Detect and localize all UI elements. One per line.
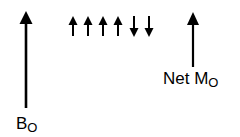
spin-down-arrow-icon bbox=[130, 16, 139, 37]
b0-label-subscript: O bbox=[27, 120, 37, 135]
spin-up-arrow-icon bbox=[69, 16, 78, 36]
b0-label-main: B bbox=[16, 114, 27, 133]
net-magnetization-arrow-icon bbox=[187, 12, 199, 67]
spin-up-arrow-icon bbox=[114, 16, 123, 36]
net-m0-label-subscript: O bbox=[208, 75, 218, 90]
spin-up-arrow-icon bbox=[99, 16, 108, 36]
spin-down-arrow-icon bbox=[145, 16, 154, 37]
net-m0-label-main: Net M bbox=[163, 69, 208, 88]
b0-field-arrow-icon bbox=[20, 11, 33, 108]
net-m0-label: Net MO bbox=[163, 70, 218, 87]
spin-up-arrow-icon bbox=[84, 16, 93, 36]
b0-label: BO bbox=[16, 115, 37, 132]
